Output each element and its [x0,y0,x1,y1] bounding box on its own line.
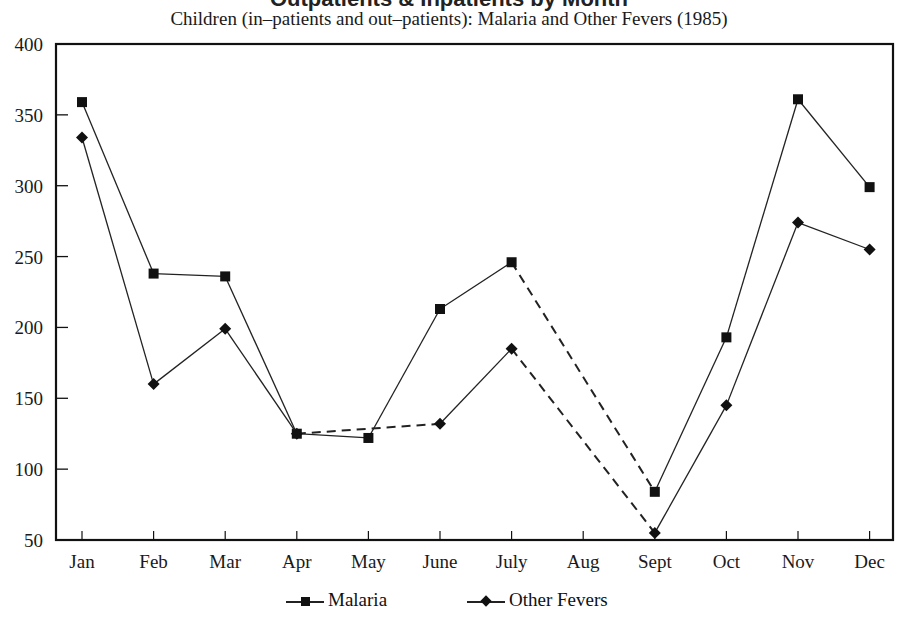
square-marker-icon [220,271,230,281]
square-marker-icon [363,433,373,443]
y-tick-label: 250 [15,247,44,268]
series-line [154,274,226,277]
series-line [297,434,369,438]
square-marker-icon [149,269,159,279]
x-tick-label: Jan [69,551,95,572]
square-marker-icon [793,94,803,104]
x-tick-label: Oct [713,551,741,572]
x-tick-label: Sept [638,551,673,572]
series-line [368,309,440,438]
diamond-marker-icon [76,132,88,144]
legend-label-malaria: Malaria [328,589,387,611]
x-tick-label: Apr [282,551,312,572]
x-tick-label: Feb [139,551,168,572]
series-line [225,276,297,433]
diamond-marker-icon [467,590,505,610]
y-tick-label: 100 [15,459,44,480]
series-line [726,99,798,337]
square-marker-icon [435,304,445,314]
square-marker-icon [286,590,324,610]
series-line [440,262,512,309]
square-marker-icon [77,97,87,107]
y-tick-label: 400 [15,34,44,55]
series-line [726,223,798,406]
line-chart: 50100150200250300350400JanFebMarAprMayJu… [0,0,898,619]
x-tick-label: Dec [854,551,885,572]
square-marker-icon [865,182,875,192]
diamond-marker-icon [864,243,876,255]
legend-item-malaria: Malaria [286,588,387,612]
diamond-marker-icon [792,217,804,229]
x-tick-label: Aug [567,551,600,572]
diamond-marker-icon [148,378,160,390]
y-tick-label: 50 [24,530,43,551]
legend-label-other-fevers: Other Fevers [509,589,608,611]
series-line [440,349,512,424]
series-line [798,99,870,187]
x-tick-label: July [496,551,528,572]
x-tick-label: June [423,551,458,572]
square-marker-icon [721,332,731,342]
x-tick-label: May [351,551,386,572]
diamond-marker-icon [720,399,732,411]
plot-frame [56,44,893,540]
series-line [82,138,154,385]
x-tick-label: Nov [782,551,815,572]
series-line [154,329,226,384]
series-line [798,223,870,250]
legend-item-other-fevers: Other Fevers [467,588,608,612]
y-tick-label: 200 [15,317,44,338]
x-tick-label: Mar [209,551,241,572]
y-tick-label: 150 [15,388,44,409]
square-marker-icon [507,257,517,267]
square-marker-icon [650,487,660,497]
y-tick-label: 300 [15,176,44,197]
series-line [225,329,297,434]
diamond-marker-icon [219,323,231,335]
series-line [82,102,154,273]
gap-bridge-line [512,349,655,533]
y-tick-label: 350 [15,105,44,126]
gap-bridge-line [297,424,440,434]
